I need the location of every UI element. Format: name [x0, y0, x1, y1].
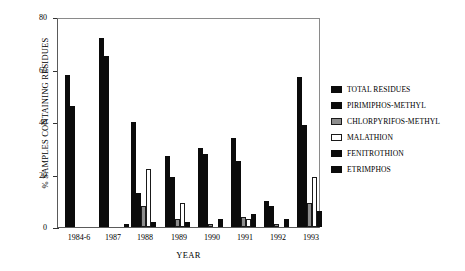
legend-swatch-icon — [331, 166, 342, 173]
y-tick-label: 40 — [21, 119, 47, 127]
legend-item: TOTAL RESIDUES — [331, 81, 461, 97]
bar-group — [99, 19, 129, 227]
bar-group — [198, 19, 228, 227]
y-tick-label: 80 — [21, 14, 47, 22]
bar — [274, 224, 279, 227]
legend-item: CHLORPYRIFOS-METHYL — [331, 113, 461, 129]
bar-group — [131, 19, 161, 227]
legend-swatch-icon — [331, 102, 342, 109]
bar-group — [264, 19, 294, 227]
chart-legend: TOTAL RESIDUESPIRIMIPHOS-METHYLCHLORPYRI… — [331, 81, 461, 177]
bar — [251, 214, 256, 227]
bar — [203, 154, 208, 228]
y-axis-title: % SAMPLES CONTAINING RESIDUES — [40, 6, 50, 221]
bar — [185, 222, 190, 227]
legend-swatch-icon — [331, 118, 342, 125]
legend-label: PIRIMIPHOS-METHYL — [347, 101, 426, 110]
y-tick-label: 20 — [21, 172, 47, 180]
y-tick-label: 0 — [21, 224, 47, 232]
legend-item: PIRIMIPHOS-METHYL — [331, 97, 461, 113]
bar — [208, 224, 213, 227]
bar — [146, 169, 151, 227]
legend-item: MALATHION — [331, 129, 461, 145]
bar — [151, 222, 156, 227]
legend-label: FENITROTHION — [347, 149, 404, 158]
x-tick-label: 1993 — [289, 233, 333, 242]
legend-label: CHLORPYRIFOS-METHYL — [347, 117, 440, 126]
bar — [104, 56, 109, 227]
chart-figure: % SAMPLES CONTAINING RESIDUES 020406080 … — [0, 0, 465, 271]
y-tick-mark — [53, 228, 59, 229]
legend-item: ETRIMPHOS — [331, 161, 461, 177]
legend-label: TOTAL RESIDUES — [347, 85, 410, 94]
legend-item: FENITROTHION — [331, 145, 461, 161]
bar — [124, 224, 129, 227]
bar-group — [231, 19, 261, 227]
bar-group — [165, 19, 195, 227]
bars-layer — [58, 19, 319, 227]
legend-label: ETRIMPHOS — [347, 165, 391, 174]
bar-group — [65, 19, 95, 227]
bar — [218, 219, 223, 227]
x-axis-title: YEAR — [57, 250, 320, 260]
legend-swatch-icon — [331, 86, 342, 93]
bar — [317, 211, 322, 227]
legend-swatch-icon — [331, 134, 342, 141]
plot-area — [57, 18, 320, 228]
y-tick-label: 60 — [21, 67, 47, 75]
legend-label: MALATHION — [347, 133, 393, 142]
bar — [284, 219, 289, 227]
bar-group — [297, 19, 327, 227]
legend-swatch-icon — [331, 150, 342, 157]
bar — [70, 106, 75, 227]
